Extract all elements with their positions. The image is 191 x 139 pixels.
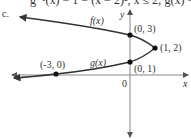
point-0-1	[127, 59, 132, 64]
point-label-neg3-0: (-3, 0)	[40, 59, 65, 71]
graph: y x 0 f(x) g(x) (0, 3) (1, 2) (0, 1) (-3…	[0, 0, 191, 139]
curve-f-label: f(x)	[90, 15, 105, 27]
x-axis-label: x	[182, 78, 188, 89]
point-label-1-2: (1, 2)	[160, 42, 182, 54]
point-neg3-0	[53, 71, 58, 76]
curve-g-label: g(x)	[90, 57, 107, 69]
point-0-3	[127, 32, 132, 37]
point-1-2	[152, 45, 157, 50]
point-label-0-1: (0, 1)	[134, 63, 156, 75]
origin-label: 0	[122, 78, 127, 89]
point-label-0-3: (0, 3)	[134, 23, 156, 35]
y-axis-label: y	[119, 9, 125, 20]
